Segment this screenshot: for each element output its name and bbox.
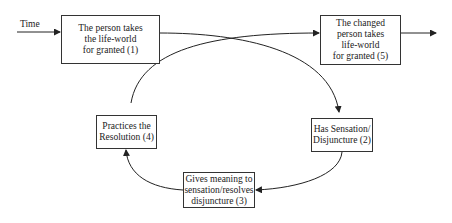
time-label: Time [20, 19, 40, 29]
node-3-gives-meaning: Gives meaning to sensation/resolves disj… [183, 172, 255, 208]
edge-1-to-2 [160, 33, 339, 112]
node-1-takes-life-world-for-granted: The person takes the life-world for gran… [61, 15, 160, 64]
node-2-sensation-disjuncture: Has Sensation/ Disjuncture (2) [311, 118, 373, 152]
edge-2-to-3 [256, 152, 342, 190]
node-5-changed-person: The changed person takes life-world for … [320, 15, 401, 65]
node-4-practices-resolution: Practices the Resolution (4) [96, 115, 157, 149]
edge-3-to-4 [126, 150, 183, 190]
